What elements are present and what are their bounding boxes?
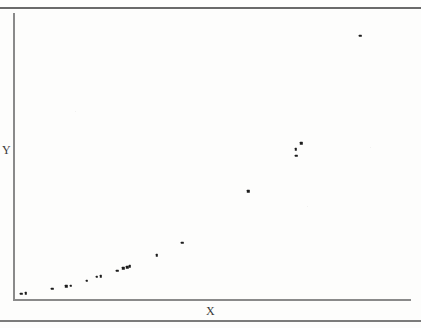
data-point: [359, 34, 361, 36]
page-top-rule: [0, 7, 421, 9]
data-point: [116, 269, 118, 271]
scatter-plot-area: [13, 13, 411, 301]
data-point: [122, 267, 124, 269]
data-point: [70, 285, 72, 287]
data-point: [295, 155, 297, 157]
x-axis-label: X: [0, 305, 421, 317]
data-point: [247, 190, 249, 192]
data-point: [25, 292, 27, 294]
data-point: [300, 142, 302, 144]
data-point: [99, 275, 101, 277]
data-point: [65, 285, 67, 287]
data-point: [129, 265, 131, 267]
data-point: [95, 275, 97, 277]
data-point: [85, 280, 87, 282]
data-point: [156, 254, 158, 256]
scanned-figure-page: Y X: [0, 0, 421, 328]
data-point: [20, 293, 22, 295]
data-point: [181, 242, 183, 244]
data-point-layer: [13, 13, 411, 301]
page-bottom-rule: [0, 320, 421, 322]
data-point: [51, 288, 53, 290]
y-axis-label: Y: [2, 144, 11, 156]
data-point: [295, 148, 297, 150]
